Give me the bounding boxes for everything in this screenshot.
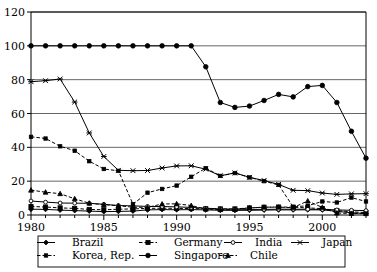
y-tick-label-40: 40	[11, 141, 25, 154]
data-point	[233, 105, 238, 110]
data-point	[72, 100, 78, 105]
data-point	[175, 184, 178, 187]
series-line	[31, 79, 366, 194]
data-point	[204, 166, 207, 169]
data-point	[335, 201, 338, 204]
y-tick-label-80: 80	[11, 74, 25, 87]
x-tick-label-2000: 2000	[308, 221, 336, 234]
data-point	[364, 200, 367, 203]
data-point	[58, 201, 62, 205]
data-point	[57, 77, 63, 82]
data-point	[73, 149, 76, 152]
y-tick-label-100: 100	[4, 40, 25, 53]
legend-item-germany[interactable]: Germany	[139, 236, 223, 248]
legend-marker-x-icon	[297, 240, 303, 245]
data-point	[321, 200, 324, 203]
y-tick-label-120: 120	[4, 6, 25, 19]
data-point	[203, 65, 208, 70]
legend-label: Brazil	[72, 236, 104, 248]
data-point	[43, 44, 48, 49]
data-point	[88, 160, 91, 163]
data-point	[29, 199, 33, 203]
legend-marker-diamond-icon	[44, 240, 49, 245]
legend-label: India	[255, 236, 282, 248]
legend-item-india[interactable]: India	[224, 236, 282, 248]
data-point	[160, 44, 165, 49]
data-point	[188, 163, 194, 168]
data-point	[101, 154, 107, 159]
series-japan	[28, 77, 369, 197]
data-point	[117, 169, 120, 172]
legend-item-brazil[interactable]: Brazil	[37, 236, 104, 248]
data-point	[306, 204, 309, 207]
data-point	[305, 84, 310, 89]
data-point	[349, 129, 354, 134]
data-point	[305, 198, 310, 203]
data-point	[102, 44, 107, 49]
data-point	[58, 145, 61, 148]
data-point	[160, 187, 163, 190]
data-point	[86, 131, 92, 136]
data-point	[73, 206, 77, 210]
data-point	[276, 92, 281, 97]
legend-marker-square-small-icon	[44, 254, 47, 257]
legend-item-korea-rep[interactable]: Korea, Rep.	[37, 249, 134, 261]
data-point	[131, 44, 136, 49]
series-korea-rep	[29, 135, 367, 208]
x-tick-label-1995: 1995	[235, 221, 263, 234]
data-point	[262, 98, 267, 103]
chart-container: 02040608010012019801985199019952000Brazi…	[0, 0, 377, 272]
data-point	[320, 191, 326, 196]
data-point	[29, 204, 33, 208]
data-point	[145, 168, 151, 173]
data-point	[87, 207, 91, 211]
series-line	[31, 209, 366, 213]
data-point	[29, 44, 34, 49]
data-point	[248, 176, 251, 179]
data-point	[189, 44, 194, 49]
line-chart: 02040608010012019801985199019952000Brazi…	[0, 0, 377, 272]
data-point	[306, 207, 310, 211]
data-point	[159, 166, 165, 171]
data-point	[72, 196, 77, 201]
data-point	[350, 196, 353, 199]
data-point	[72, 44, 77, 49]
data-point	[102, 167, 105, 170]
data-point	[102, 208, 106, 212]
data-point	[364, 156, 369, 161]
data-point	[335, 100, 340, 105]
data-point	[320, 83, 325, 88]
data-point	[247, 104, 252, 109]
data-point	[290, 188, 296, 193]
legend-item-japan[interactable]: Japan	[291, 236, 352, 248]
series-singapore	[29, 44, 369, 161]
data-point	[58, 206, 62, 210]
data-point	[334, 192, 340, 197]
data-point	[190, 175, 193, 178]
data-point	[291, 95, 296, 100]
data-point	[219, 174, 222, 177]
data-point	[29, 135, 32, 138]
legend-item-singapore[interactable]: Singapore	[139, 249, 229, 261]
legend-marker-circle-icon	[146, 253, 151, 258]
series-line	[31, 46, 366, 158]
data-point	[130, 168, 136, 173]
data-point	[58, 44, 63, 49]
data-point	[174, 44, 179, 49]
legend-marker-square-icon	[146, 240, 150, 244]
data-point	[277, 183, 280, 186]
data-point	[73, 201, 77, 205]
legend-label: Korea, Rep.	[72, 249, 134, 261]
y-tick-label-60: 60	[11, 108, 25, 121]
legend-label: Japan	[321, 236, 352, 248]
data-point	[233, 171, 236, 174]
data-point	[262, 179, 265, 182]
data-point	[218, 100, 223, 105]
legend-marker-circle-open-icon	[231, 241, 235, 245]
data-point	[44, 137, 47, 140]
data-point	[43, 205, 47, 209]
data-point	[44, 200, 48, 204]
data-point	[145, 44, 150, 49]
x-tick-label-1990: 1990	[163, 221, 191, 234]
data-point	[116, 44, 121, 49]
